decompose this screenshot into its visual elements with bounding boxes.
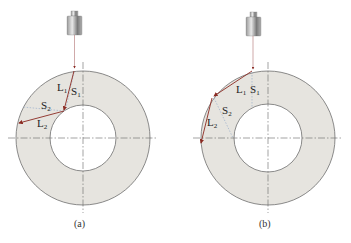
panel-a: L1 S1 S2 L2 (a) (8, 11, 158, 230)
panel-b: L1 S1 S2 L2 (b) (193, 12, 343, 230)
caption-a: (a) (74, 218, 85, 230)
transducer-icon (246, 12, 261, 36)
transducer-icon (67, 11, 82, 35)
caption-b: (b) (259, 218, 271, 230)
ultrasonic-ring-diagram: L1 S1 S2 L2 (a) L1 S1 S2 L2 (b) (0, 0, 351, 243)
